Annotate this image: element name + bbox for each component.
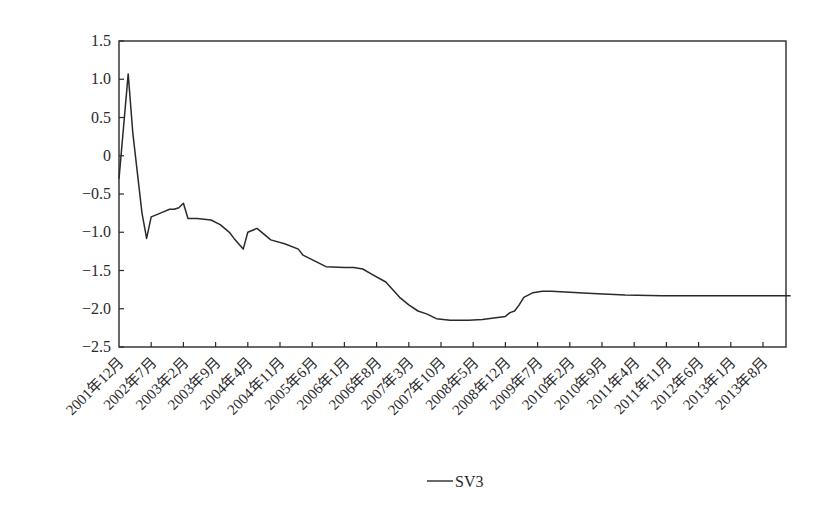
series-layer (119, 74, 791, 320)
y-tick-label: 1.5 (91, 32, 111, 49)
legend: SV3 (427, 473, 483, 490)
y-tick-label: 0 (103, 147, 111, 164)
y-tick-label: −1.5 (82, 262, 111, 279)
x-axis: 2001年12月2002年7月2003年2月2003年9月2004年4月2004… (63, 342, 771, 418)
y-tick-label: 1.0 (91, 70, 111, 87)
series-line-sv3 (119, 74, 791, 320)
y-tick-label: −0.5 (82, 185, 111, 202)
line-chart: 1.51.00.50−0.5−1.0−1.5−2.0−2.5 2001年12月2… (0, 0, 834, 513)
y-axis: 1.51.00.50−0.5−1.0−1.5−2.0−2.5 (82, 32, 124, 355)
y-tick-label: −2.0 (82, 300, 111, 317)
y-tick-label: 0.5 (91, 109, 111, 126)
y-tick-label: −1.0 (82, 223, 111, 240)
y-tick-label: −2.5 (82, 338, 111, 355)
plot-frame (119, 41, 786, 347)
legend-label-sv3: SV3 (455, 473, 483, 490)
